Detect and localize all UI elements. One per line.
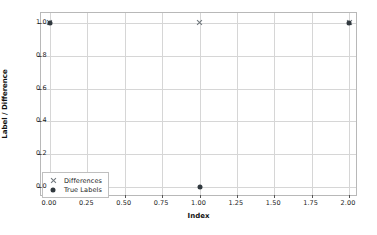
gridline-vertical <box>349 13 350 195</box>
legend-label: True Labels <box>59 186 102 194</box>
x-axis-tick <box>349 195 350 198</box>
gridline-vertical <box>237 13 238 195</box>
data-point-dot <box>51 187 56 192</box>
y-axis-tick-label: 0.8 <box>36 51 47 59</box>
y-axis-tick-label: 0.2 <box>36 149 47 157</box>
y-axis-tick-label: 0.0 <box>36 182 47 190</box>
x-axis-tick <box>237 195 238 198</box>
legend-entry: True Labels <box>47 185 102 194</box>
legend-entry: Differences <box>47 176 102 185</box>
x-axis-tick <box>125 195 126 198</box>
gridline-vertical <box>162 13 163 195</box>
plot-area <box>40 12 357 196</box>
gridline-vertical <box>312 13 313 195</box>
gridline-horizontal <box>41 121 356 122</box>
x-axis-tick-label: 0.25 <box>79 199 94 207</box>
x-axis-tick-label: 1.75 <box>303 199 318 207</box>
gridline-vertical <box>200 13 201 195</box>
gridline-vertical <box>125 13 126 195</box>
legend-label: Differences <box>59 177 102 185</box>
x-axis-label: Index <box>40 212 357 220</box>
legend-dot-icon <box>47 185 59 194</box>
x-axis-tick-label: 1.50 <box>266 199 281 207</box>
x-axis-tick-label: 0.50 <box>116 199 131 207</box>
gridline-horizontal <box>41 56 356 57</box>
gridline-vertical <box>87 13 88 195</box>
y-axis-tick-label: 1.0 <box>36 18 47 26</box>
y-axis-tick-label: 0.6 <box>36 84 47 92</box>
x-axis-tick-label: 2.00 <box>341 199 356 207</box>
y-axis-tick-label: 0.4 <box>36 116 47 124</box>
x-axis-tick-label: 0.00 <box>42 199 57 207</box>
gridline-vertical <box>274 13 275 195</box>
gridline-horizontal <box>41 23 356 24</box>
x-axis-tick <box>274 195 275 198</box>
x-axis-tick <box>200 195 201 198</box>
chart-figure: Index Label / Difference DifferencesTrue… <box>0 0 377 235</box>
x-axis-tick-label: 1.25 <box>228 199 243 207</box>
y-axis-label: Label / Difference <box>1 69 9 138</box>
gridline-horizontal <box>41 89 356 90</box>
chart-legend: DifferencesTrue Labels <box>42 172 109 198</box>
x-axis-tick <box>162 195 163 198</box>
gridline-vertical <box>50 13 51 195</box>
data-point-cross <box>50 177 57 184</box>
x-axis-tick <box>312 195 313 198</box>
x-axis-tick-label: 0.75 <box>154 199 169 207</box>
gridline-horizontal <box>41 154 356 155</box>
x-axis-tick-label: 1.00 <box>191 199 206 207</box>
legend-cross-icon <box>47 176 59 185</box>
